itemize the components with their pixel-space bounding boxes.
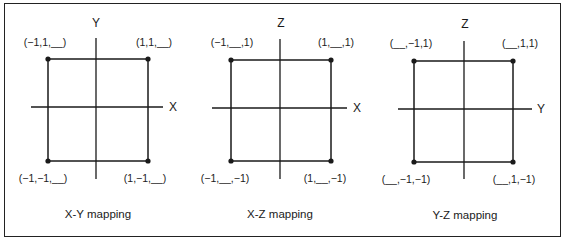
- corner-point-bottom-right: [328, 158, 333, 163]
- corner-label-top-right: (1,__,1): [318, 36, 354, 48]
- corner-label-bottom-left: (−1,−1,__): [19, 172, 67, 184]
- corner-point-bottom-left: [45, 158, 50, 163]
- corner-point-top-right: [145, 56, 150, 61]
- corner-label-bottom-left: (−1,__,−1): [201, 172, 249, 184]
- corner-label-top-right: (1,1,__): [136, 36, 172, 48]
- corner-point-top-right: [510, 58, 515, 63]
- mapping-diagram: Y X (−1,1,__) (1,1,__) (−1,−1,__) (1,−1,…: [0, 0, 566, 245]
- corner-label-top-right: (__,1,1): [502, 37, 538, 49]
- corner-point-bottom-left: [228, 158, 233, 163]
- corner-point-top-left: [228, 57, 233, 62]
- unit-square: [231, 60, 331, 161]
- vertical-axis-label: Z: [461, 17, 468, 31]
- corner-label-bottom-right: (1,−1,__): [124, 172, 166, 184]
- corner-label-top-left: (−1,1,__): [24, 36, 66, 48]
- corner-point-bottom-right: [145, 158, 150, 163]
- panel-caption: X-Y mapping: [65, 208, 131, 220]
- unit-square: [48, 59, 148, 161]
- corner-label-bottom-left: (__,−1,−1): [382, 173, 430, 185]
- vertical-axis-label: Y: [92, 16, 100, 30]
- corner-label-top-left: (−1,__,1): [211, 36, 253, 48]
- horizontal-axis-label: Y: [537, 102, 545, 116]
- corner-point-bottom-left: [411, 159, 416, 164]
- corner-label-bottom-right: (__,1,−1): [493, 173, 535, 185]
- horizontal-axis-label: X: [169, 100, 177, 114]
- corner-point-top-left: [45, 56, 50, 61]
- panel-caption: X-Z mapping: [247, 208, 313, 220]
- panel-yz-mapping: Z Y (__,−1,1) (__,1,1) (__,−1,−1) (__,1,…: [382, 17, 545, 221]
- corner-point-top-left: [411, 58, 416, 63]
- panel-caption: Y-Z mapping: [433, 209, 498, 221]
- corner-label-top-left: (__,−1,1): [390, 37, 432, 49]
- panel-xy-mapping: Y X (−1,1,__) (1,1,__) (−1,−1,__) (1,−1,…: [19, 16, 177, 220]
- horizontal-axis-label: X: [353, 101, 361, 115]
- corner-point-top-right: [328, 57, 333, 62]
- corner-label-bottom-right: (1,__,−1): [304, 172, 346, 184]
- panel-xz-mapping: Z X (−1,__,1) (1,__,1) (−1,__,−1) (1,__,…: [201, 16, 361, 220]
- vertical-axis-label: Z: [277, 16, 284, 30]
- corner-point-bottom-right: [510, 159, 515, 164]
